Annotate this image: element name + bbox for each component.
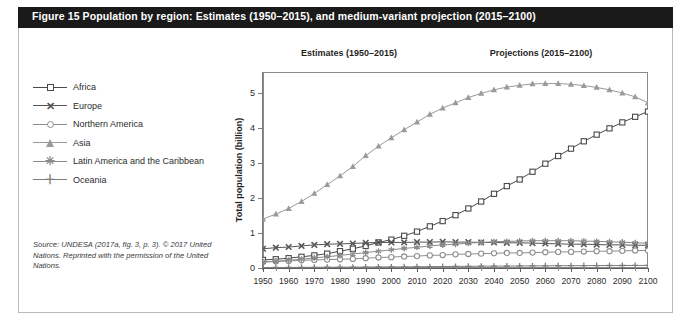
circle-marker-icon [33, 118, 67, 130]
x-tick-label: 2020 [433, 276, 452, 286]
x-tick-mark-minor [558, 268, 559, 271]
x-tick-label: 2080 [587, 276, 606, 286]
legend-item-latin-america-and-the-caribbean[interactable]: ✳Latin America and the Caribbean [33, 152, 233, 171]
y-tick-mark [258, 233, 262, 234]
x-tick-mark [597, 268, 598, 272]
legend-item-oceania[interactable]: ＋Oceania [33, 171, 233, 190]
plus-marker-icon: ＋ [33, 174, 67, 186]
x-tick-label: 2010 [407, 276, 426, 286]
x-tick-mark [314, 268, 315, 272]
x-tick-label: 2040 [484, 276, 503, 286]
x-tick-label: 2070 [561, 276, 580, 286]
x-tick-label: 1970 [305, 276, 324, 286]
y-tick-mark [258, 93, 262, 94]
x-tick-label: 2090 [613, 276, 632, 286]
y-tick-label: 1 [233, 228, 255, 238]
series-asia [263, 80, 648, 221]
figure-title: Figure 15 Population by region: Estimate… [32, 10, 536, 22]
x-tick-label: 2000 [382, 276, 401, 286]
x-tick-mark [391, 268, 392, 272]
y-tick-mark [258, 198, 262, 199]
x-tick-mark [289, 268, 290, 272]
projections-caption: Projections (2015–2100) [490, 48, 593, 58]
x-tick-label: 1950 [253, 276, 272, 286]
x-tick-mark-minor [610, 268, 611, 271]
square-marker-icon [33, 81, 67, 93]
cross-marker-icon: ✕ [33, 100, 67, 112]
legend-item-asia[interactable]: Asia [33, 134, 233, 153]
x-tick-mark [263, 268, 264, 272]
x-tick-mark-minor [404, 268, 405, 271]
x-tick-mark [622, 268, 623, 272]
legend-item-northern-america[interactable]: Northern America [33, 115, 233, 134]
x-tick-mark [340, 268, 341, 272]
legend-item-label: Africa [73, 82, 96, 92]
legend-item-europe[interactable]: ✕Europe [33, 97, 233, 116]
x-tick-mark-minor [635, 268, 636, 271]
figure-title-bar: Figure 15 Population by region: Estimate… [18, 7, 673, 28]
x-tick-label: 2100 [638, 276, 657, 286]
chart-plot-area: Total population (billion) 0123451950196… [263, 72, 648, 268]
y-tick-label: 5 [233, 88, 255, 98]
x-tick-mark [443, 268, 444, 272]
x-tick-mark-minor [507, 268, 508, 271]
x-tick-mark [571, 268, 572, 272]
x-tick-mark [648, 268, 649, 272]
x-tick-mark [494, 268, 495, 272]
x-tick-label: 1960 [279, 276, 298, 286]
legend-item-label: Latin America and the Caribbean [73, 156, 204, 166]
y-tick-mark [258, 128, 262, 129]
legend-item-africa[interactable]: Africa [33, 78, 233, 97]
x-tick-mark [468, 268, 469, 272]
y-tick-label: 4 [233, 123, 255, 133]
x-tick-label: 1990 [356, 276, 375, 286]
x-tick-label: 2050 [510, 276, 529, 286]
legend-item-label: Asia [73, 138, 91, 148]
x-tick-mark-minor [430, 268, 431, 271]
x-tick-mark-minor [456, 268, 457, 271]
y-tick-label: 0 [233, 263, 255, 273]
x-tick-mark-minor [379, 268, 380, 271]
x-tick-mark-minor [327, 268, 328, 271]
x-tick-mark [366, 268, 367, 272]
legend-item-label: Europe [73, 101, 102, 111]
x-tick-mark-minor [481, 268, 482, 271]
star-marker-icon: ✳ [33, 155, 67, 167]
chart-series-layer [263, 72, 648, 268]
y-tick-label: 3 [233, 158, 255, 168]
series-northern-america [263, 248, 648, 265]
y-axis-title: Total population (billion) [234, 118, 244, 222]
chart-legend: Africa✕EuropeNorthern AmericaAsia✳Latin … [33, 78, 233, 189]
x-tick-mark-minor [584, 268, 585, 271]
x-tick-mark [545, 268, 546, 272]
y-tick-mark [258, 163, 262, 164]
x-tick-label: 1980 [330, 276, 349, 286]
source-note: Source: UNDESA (2017a, fig. 3, p. 3). © … [33, 240, 218, 272]
x-tick-label: 2060 [536, 276, 555, 286]
x-tick-label: 2030 [459, 276, 478, 286]
estimates-caption: Estimates (1950–2015) [301, 48, 397, 58]
series-africa [263, 109, 648, 263]
x-tick-mark [520, 268, 521, 272]
x-tick-mark-minor [302, 268, 303, 271]
x-tick-mark-minor [353, 268, 354, 271]
y-tick-label: 2 [233, 193, 255, 203]
x-tick-mark [417, 268, 418, 272]
legend-item-label: Oceania [73, 175, 107, 185]
triangle-marker-icon [33, 137, 67, 149]
x-tick-mark-minor [276, 268, 277, 271]
y-tick-mark [258, 268, 262, 269]
legend-item-label: Northern America [73, 119, 143, 129]
x-tick-mark-minor [533, 268, 534, 271]
